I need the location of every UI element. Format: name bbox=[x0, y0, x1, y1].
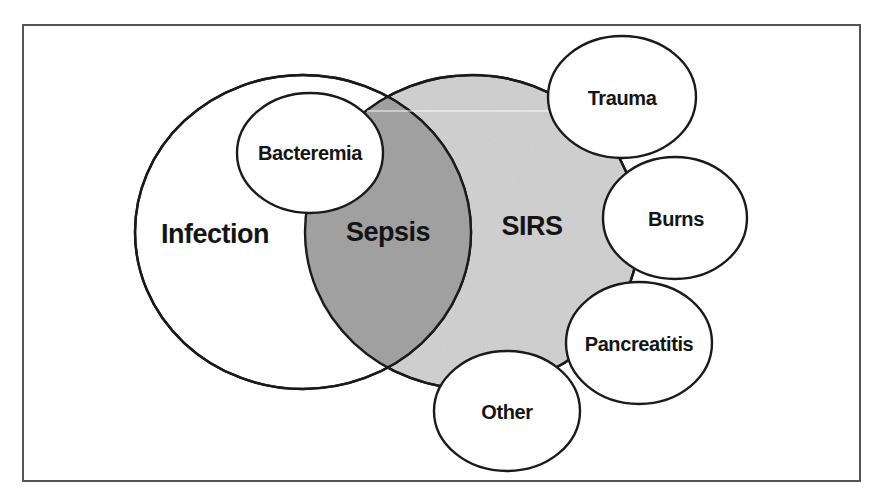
bacteremia-label: Bacteremia bbox=[258, 142, 363, 164]
sepsis-venn-diagram: Infection Sepsis SIRS Bacteremia Trauma … bbox=[0, 0, 880, 496]
burns-label: Burns bbox=[648, 208, 704, 230]
other-label: Other bbox=[481, 401, 533, 423]
sirs-label: SIRS bbox=[501, 211, 562, 241]
trauma-label: Trauma bbox=[588, 87, 658, 109]
infection-label: Infection bbox=[161, 219, 269, 249]
pancreatitis-label: Pancreatitis bbox=[585, 333, 694, 355]
sepsis-label: Sepsis bbox=[346, 217, 430, 247]
